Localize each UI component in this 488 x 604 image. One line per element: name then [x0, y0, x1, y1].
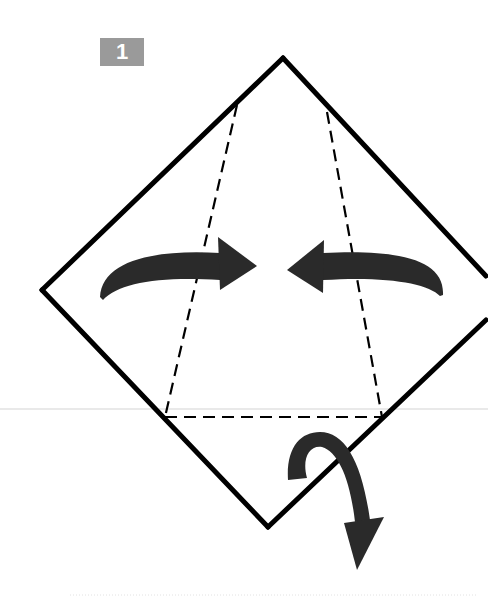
- arrow-left-icon: [287, 240, 443, 296]
- step-number-badge: 1: [100, 38, 144, 66]
- fold-behind-arrow-icon: [288, 432, 384, 570]
- origami-diagram: 1: [0, 0, 488, 604]
- arrow-right-icon: [100, 237, 257, 300]
- diagram-canvas: [0, 0, 488, 604]
